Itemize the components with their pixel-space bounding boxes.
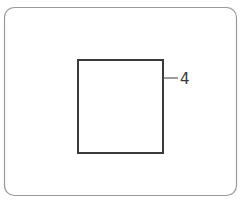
inner-square: [78, 60, 163, 153]
technical-drawing: 4: [0, 0, 242, 206]
callout-label-4: 4: [180, 70, 190, 88]
drawing-canvas: 4: [0, 0, 242, 206]
outer-frame: [5, 8, 237, 196]
